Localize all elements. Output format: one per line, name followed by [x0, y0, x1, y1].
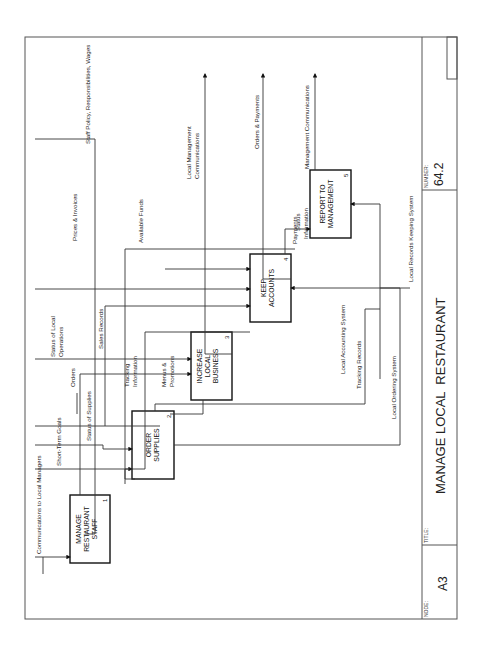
- svg-text:Management Communications: Management Communications: [303, 85, 310, 169]
- svg-text:Operations: Operations: [57, 327, 64, 357]
- node-value: A3: [436, 576, 450, 591]
- title-label: TITLE:: [423, 528, 429, 543]
- svg-text:REPORT TO: REPORT TO: [319, 184, 326, 223]
- number-value: 64.2: [432, 162, 446, 186]
- svg-text:Tracking Records: Tracking Records: [355, 341, 362, 389]
- svg-text:Prices & Invoices: Prices & Invoices: [71, 194, 78, 241]
- idef0-diagram: NODE: A3 TITLE: MANAGE LOCAL RESTAURANT …: [0, 0, 483, 649]
- svg-text:STAFF: STAFF: [91, 518, 98, 539]
- svg-text:Communications: Communications: [193, 133, 200, 179]
- svg-text:KEEP: KEEP: [260, 278, 267, 297]
- box-report-to-management[interactable]: REPORT TO MANAGEMENT 5: [310, 170, 351, 238]
- arrow-management-communications: Management Communications: [303, 74, 315, 170]
- arrow-communications-to-local-managers: Communications to Local Managers: [35, 455, 70, 574]
- svg-text:ORDER: ORDER: [145, 433, 152, 458]
- corner-box: [447, 37, 457, 79]
- svg-text:LOCAL: LOCAL: [204, 355, 211, 378]
- svg-text:INCREASE: INCREASE: [196, 348, 203, 383]
- svg-text:SUPPLIES: SUPPLIES: [153, 428, 160, 462]
- svg-text:Menus &: Menus &: [160, 362, 167, 387]
- svg-text:Promotions: Promotions: [168, 356, 175, 387]
- title-value: MANAGE LOCAL RESTAURANT: [433, 297, 448, 494]
- svg-text:Local Management: Local Management: [185, 126, 192, 179]
- svg-text:MANAGEMENT: MANAGEMENT: [327, 180, 334, 229]
- arrow-status-of-supplies: Status of Supplies: [35, 391, 132, 449]
- svg-text:Staff Policy, Responsibilities: Staff Policy, Responsibilities, Wages: [84, 45, 91, 144]
- svg-text:Communications to Local Manage: Communications to Local Managers: [35, 455, 42, 554]
- arrow-tracking-records: Tracking Records: [155, 309, 380, 411]
- svg-text:Information: Information: [131, 355, 138, 387]
- svg-text:ACCOUNTS: ACCOUNTS: [268, 268, 275, 307]
- svg-text:Local Records Keeping System: Local Records Keeping System: [407, 196, 414, 282]
- arrow-local-records-keeping-system: Local Records Keeping System: [351, 196, 414, 288]
- arrow-local-management-communications: Local Management Communications: [185, 74, 232, 354]
- box-increase-local-business[interactable]: INCREASE LOCAL BUSINESS 3: [191, 332, 232, 400]
- svg-text:Status of Local: Status of Local: [49, 316, 56, 357]
- svg-text:Status of Supplies: Status of Supplies: [85, 391, 92, 441]
- svg-text:RESTAURANT: RESTAURANT: [83, 506, 90, 552]
- arrow-short-term-goals: Short-Term Goals: [35, 418, 132, 469]
- svg-text:Tracking: Tracking: [123, 363, 130, 387]
- svg-text:Status: Status: [294, 213, 301, 231]
- arrow-status-information: Status Information: [285, 207, 310, 254]
- svg-text:Local Ordering System: Local Ordering System: [390, 356, 397, 419]
- svg-text:Short-Term Goals: Short-Term Goals: [55, 418, 62, 466]
- svg-text:MANAGE: MANAGE: [75, 514, 82, 544]
- box-keep-accounts[interactable]: KEEP ACCOUNTS 4: [250, 254, 291, 322]
- node-label: NODE:: [423, 601, 429, 617]
- svg-text:Information: Information: [302, 207, 309, 239]
- box-manage-restaurant-staff[interactable]: MANAGE RESTAURANT STAFF 1: [70, 495, 110, 563]
- svg-text:Orders: Orders: [69, 368, 76, 387]
- svg-text:Available Funds: Available Funds: [137, 199, 144, 243]
- number-label: NUMBER:: [423, 165, 429, 188]
- arrow-local-accounting-system: Local Accounting System: [291, 288, 380, 379]
- svg-text:Local Accounting System: Local Accounting System: [339, 305, 346, 374]
- svg-text:Sales Records: Sales Records: [97, 309, 104, 349]
- arrow-status-of-local-operations: Status of Local Operations: [35, 316, 191, 359]
- svg-text:Orders & Payments: Orders & Payments: [253, 95, 260, 149]
